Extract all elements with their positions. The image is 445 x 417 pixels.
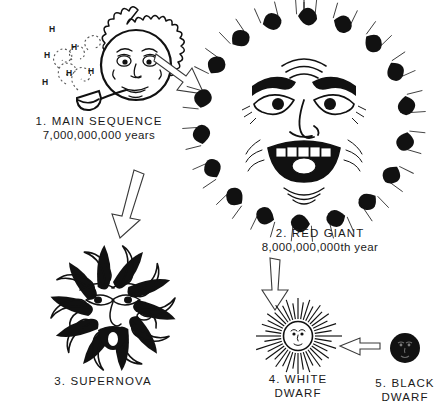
svg-text:H: H <box>42 77 48 87</box>
label-main-sequence-title: 1. MAIN SEQUENCE <box>14 114 184 128</box>
svg-text:H: H <box>66 68 72 78</box>
caption-supernova: 3. SUPERNOVA <box>28 374 178 388</box>
stellar-evolution-figure: H H H H H H 1. MAIN SEQUENCE 7,000,000,0… <box>0 0 445 417</box>
label-white-dwarf-title: 4. WHITE <box>252 372 344 386</box>
label-red-giant-age: 8,000,000,000th year <box>232 240 408 254</box>
stage-red-giant: 2. RED GIANT 8,000,000,000th year <box>190 8 440 258</box>
stage-white-dwarf: 4. WHITE DWARF <box>252 296 352 406</box>
label-black-dwarf-title2: DWARF <box>372 390 438 404</box>
label-white-dwarf-title2: DWARF <box>252 386 344 400</box>
stage-black-dwarf: 5. BLACK DWARF <box>372 320 444 410</box>
caption-main-sequence: 1. MAIN SEQUENCE 7,000,000,000 years <box>14 114 184 142</box>
flame-rim <box>191 8 416 232</box>
label-main-sequence-age: 7,000,000,000 years <box>14 128 184 142</box>
svg-text:H: H <box>71 42 77 52</box>
label-red-giant-title: 2. RED GIANT <box>232 226 408 240</box>
label-black-dwarf-title: 5. BLACK <box>372 376 438 390</box>
arrow-giant-to-supernova-icon <box>104 168 152 240</box>
stage-supernova: 3. SUPERNOVA <box>28 242 208 402</box>
pipe-icon <box>77 90 126 110</box>
svg-text:H: H <box>88 66 94 76</box>
label-supernova-title: 3. SUPERNOVA <box>28 374 178 388</box>
eyebrows <box>252 77 356 96</box>
red-giant-sun-art <box>190 8 418 233</box>
caption-black-dwarf: 5. BLACK DWARF <box>372 376 438 404</box>
supernova-art <box>28 242 198 382</box>
svg-text:H: H <box>49 24 55 34</box>
caption-white-dwarf: 4. WHITE DWARF <box>252 372 344 400</box>
svg-text:H: H <box>44 50 50 60</box>
red-giant-face <box>282 59 326 78</box>
black-dwarf-art <box>372 320 438 380</box>
caption-red-giant: 2. RED GIANT 8,000,000,000th year <box>232 226 408 254</box>
hydrogen-labels: H H H H H H <box>42 24 94 87</box>
white-dwarf-art <box>252 296 344 378</box>
